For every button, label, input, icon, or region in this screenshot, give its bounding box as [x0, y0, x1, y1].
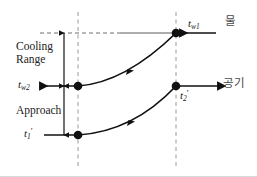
cooling-range-label-line2: Range [16, 53, 53, 66]
water-temperature-curve [78, 33, 176, 86]
node-tw1 [172, 29, 181, 38]
cooling-tower-diagram: Cooling Range Approach tw1 tw2 t1′ t2′ 물… [0, 0, 257, 177]
cooling-range-label-line1: Cooling [16, 40, 53, 53]
t1-prime-mark: ′ [31, 126, 33, 136]
temperature-label-tw1: tw1 [188, 17, 200, 29]
node-t1-prime [74, 131, 83, 140]
node-t2-prime [172, 82, 181, 91]
air-stream-label: 공기 [223, 77, 245, 90]
temperature-label-t1-prime: t1′ [24, 127, 33, 139]
temperature-label-t2-prime: t2′ [180, 89, 189, 101]
tw2-subscript: w2 [21, 83, 30, 92]
t2-prime-mark: ′ [187, 88, 189, 98]
approach-label: Approach [16, 104, 61, 117]
temperature-label-tw2: tw2 [18, 78, 30, 90]
air-curve-direction-marker [127, 120, 135, 126]
air-temperature-curve [78, 86, 176, 135]
node-tw2 [74, 82, 83, 91]
tw1-subscript: w1 [191, 22, 200, 31]
water-stream-label: 물 [225, 15, 236, 28]
diagram-canvas [0, 0, 257, 177]
cooling-range-label: Cooling Range [16, 40, 53, 66]
